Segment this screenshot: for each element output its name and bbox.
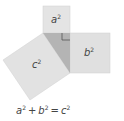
- equation: a2+b2=c2: [16, 104, 70, 116]
- pythagoras-diagram: a2 b2 c2 a2+b2=c2: [0, 0, 124, 121]
